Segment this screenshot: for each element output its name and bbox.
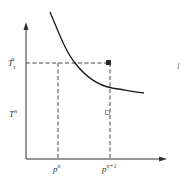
filled-square-marker-icon	[106, 60, 111, 65]
open-square-marker-icon	[106, 111, 110, 115]
x-label-pn1: pn+1	[102, 163, 117, 174]
y-label-ts: Tsn	[8, 57, 18, 70]
diagram-canvas	[0, 0, 181, 181]
right-edge-label: l	[177, 62, 180, 71]
y-axis-arrow-icon	[24, 22, 29, 30]
y-label-t: Tn	[9, 108, 17, 119]
x-axis-arrow-icon	[159, 157, 167, 162]
curve	[50, 12, 144, 93]
x-label-pn: pn	[53, 163, 61, 174]
